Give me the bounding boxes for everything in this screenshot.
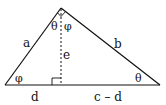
label-left-phi: φ: [15, 72, 23, 85]
right-triangle-diagram: a b e d c – d θ φ φ θ: [0, 0, 166, 105]
label-right-theta: θ: [135, 72, 142, 85]
label-altitude-e: e: [63, 48, 70, 62]
side-b-line: [61, 8, 160, 85]
label-side-a: a: [23, 36, 30, 50]
label-side-b: b: [114, 37, 122, 51]
label-apex-phi: φ: [64, 20, 72, 33]
label-base-c-minus-d: c – d: [94, 90, 122, 104]
foot-right-angle-marker: [52, 78, 61, 85]
label-base-d: d: [31, 90, 39, 104]
label-apex-theta: θ: [51, 20, 58, 33]
